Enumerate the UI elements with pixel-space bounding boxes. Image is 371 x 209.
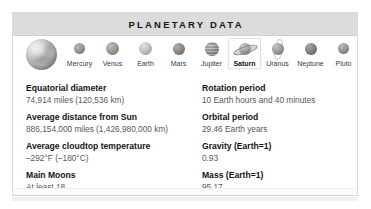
planet-item-uranus[interactable]: Uranus xyxy=(261,38,294,69)
fact-average-distance-from-sun: Average distance from Sun 886,154,000 mi… xyxy=(26,112,198,135)
planet-mars-icon xyxy=(163,40,194,57)
planet-item-label: Saturn xyxy=(233,59,255,68)
fact-orbital-period: Orbital period 29.46 Earth years xyxy=(202,112,357,135)
fact-equatorial-diameter: Equatorial diameter 74,914 miles (120,53… xyxy=(26,83,198,106)
planet-jupiter-icon xyxy=(196,40,227,57)
planet-item-mars[interactable]: Mars xyxy=(162,38,195,69)
fact-average-cloudtop-temperature: Average cloudtop temperature –292°F (–18… xyxy=(26,141,198,164)
planet-item-label: Venus xyxy=(103,59,122,68)
fact-value: –292°F (–180°C) xyxy=(26,153,198,164)
fact-label: Orbital period xyxy=(202,112,357,123)
planet-item-label: Neptune xyxy=(297,59,323,68)
planet-neptune-icon xyxy=(295,40,326,57)
fact-value: 10 Earth hours and 40 minutes xyxy=(202,95,357,106)
planet-item-earth[interactable]: Earth xyxy=(129,38,162,69)
planet-pluto-icon xyxy=(328,40,358,57)
hero-planet-image-wrap xyxy=(19,38,63,70)
planet-item-label: Mars xyxy=(171,59,187,68)
planet-item-jupiter[interactable]: Jupiter xyxy=(195,38,228,69)
fact-value: 29.46 Earth years xyxy=(202,124,357,135)
card-header: PLANETARY DATA xyxy=(13,13,357,36)
fact-value: 886,154,000 miles (1,426,980,000 km) xyxy=(26,124,198,135)
planet-item-label: Uranus xyxy=(266,59,289,68)
fact-value: 74,914 miles (120,536 km) xyxy=(26,95,198,106)
planet-item-pluto[interactable]: Pluto xyxy=(327,38,358,69)
planet-list: Mercury Venus Earth Mars xyxy=(63,38,358,69)
planet-item-label: Mercury xyxy=(67,59,92,68)
facts-column-right: Rotation period 10 Earth hours and 40 mi… xyxy=(198,83,357,193)
planet-item-saturn[interactable]: Saturn xyxy=(228,38,261,69)
fact-rotation-period: Rotation period 10 Earth hours and 40 mi… xyxy=(202,83,357,106)
fact-label: Rotation period xyxy=(202,83,357,94)
fact-label: Average cloudtop temperature xyxy=(26,141,198,152)
planet-venus-icon xyxy=(97,40,128,57)
fact-gravity: Gravity (Earth=1) 0.93 xyxy=(202,141,357,164)
planet-item-label: Jupiter xyxy=(201,59,222,68)
card-bottom-band xyxy=(13,188,357,195)
planet-item-label: Earth xyxy=(137,59,154,68)
fact-label: Main Moons xyxy=(26,170,198,181)
fact-value: 0.93 xyxy=(202,153,357,164)
planet-item-label: Pluto xyxy=(336,59,352,68)
planet-mercury-icon xyxy=(64,40,95,57)
fact-label: Average distance from Sun xyxy=(26,112,198,123)
saturn-hero-image xyxy=(26,39,57,70)
planet-selector-strip: Mercury Venus Earth Mars xyxy=(13,36,357,76)
planet-earth-icon xyxy=(130,40,161,57)
planet-item-mercury[interactable]: Mercury xyxy=(63,38,96,69)
planet-saturn-icon xyxy=(229,40,260,57)
page-title: PLANETARY DATA xyxy=(126,19,243,30)
planetary-data-card: PLANETARY DATA Mercury Venus xyxy=(12,12,358,196)
facts-column-left: Equatorial diameter 74,914 miles (120,53… xyxy=(13,83,198,193)
planet-facts-grid: Equatorial diameter 74,914 miles (120,53… xyxy=(13,76,357,193)
planet-item-venus[interactable]: Venus xyxy=(96,38,129,69)
fact-label: Mass (Earth=1) xyxy=(202,170,357,181)
planet-uranus-icon xyxy=(262,40,293,57)
card-drop-shadow xyxy=(12,197,358,201)
planet-item-neptune[interactable]: Neptune xyxy=(294,38,327,69)
fact-label: Equatorial diameter xyxy=(26,83,198,94)
fact-label: Gravity (Earth=1) xyxy=(202,141,357,152)
